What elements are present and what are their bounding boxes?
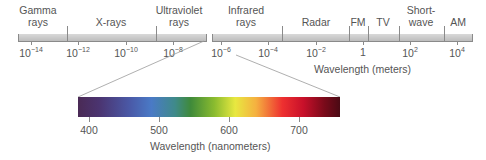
- visible-spectrum-bar: [78, 97, 340, 117]
- nanometers-axis-title: Wavelength (nanometers): [150, 140, 270, 152]
- nm-tick-mark: [89, 117, 90, 122]
- nm-tick-mark: [159, 117, 160, 122]
- nm-tick-label: 600: [220, 124, 238, 136]
- nm-tick-label: 700: [290, 124, 308, 136]
- nm-tick-label: 500: [150, 124, 168, 136]
- nm-tick-label: 400: [80, 124, 98, 136]
- nm-tick-mark: [299, 117, 300, 122]
- zoom-connector-lines: [0, 0, 486, 160]
- nm-tick-mark: [229, 117, 230, 122]
